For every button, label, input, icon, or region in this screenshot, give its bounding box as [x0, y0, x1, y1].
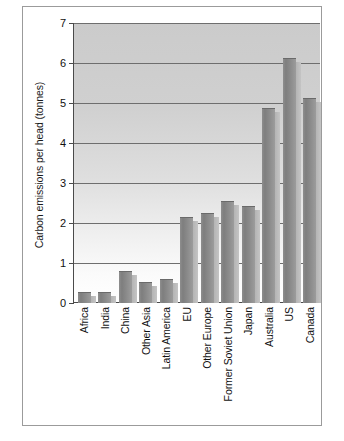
x-label-cell: Other Asia — [136, 307, 157, 425]
chart-frame: Carbon emissions per head (tonnes) 01234… — [22, 6, 322, 426]
bar — [283, 58, 296, 303]
bar — [180, 217, 193, 303]
bar-cell — [300, 23, 321, 303]
bar-cell — [218, 23, 239, 303]
bar-stack — [242, 206, 255, 303]
bar-stack — [180, 217, 193, 303]
bar-stack — [262, 108, 275, 303]
bar — [119, 271, 132, 303]
bar-cell — [74, 23, 95, 303]
plot-area: 01234567 — [74, 23, 320, 303]
bar-cell — [156, 23, 177, 303]
x-label-cell: India — [95, 307, 116, 425]
y-tick-label: 6 — [60, 57, 66, 69]
x-label-cell: EU — [177, 307, 198, 425]
bar-shadow — [91, 296, 96, 303]
bar-shadow — [111, 296, 116, 303]
bar-shadow — [316, 102, 321, 303]
bar — [303, 98, 316, 303]
bar — [262, 108, 275, 303]
bar — [242, 206, 255, 303]
x-label-cell: Other Europe — [197, 307, 218, 425]
bar-shadow — [275, 112, 280, 303]
bar-shadow — [152, 286, 157, 303]
x-tick-label: India — [99, 307, 111, 329]
bar-cell — [177, 23, 198, 303]
y-tick-label: 1 — [60, 257, 66, 269]
bar-cell — [197, 23, 218, 303]
bar-cell — [259, 23, 280, 303]
x-tick-label: Africa — [78, 307, 90, 333]
bar-shadow — [296, 62, 301, 303]
x-tick-label: US — [283, 307, 295, 321]
bar-stack — [78, 292, 91, 303]
y-tick-label: 5 — [60, 97, 66, 109]
bar-cell — [238, 23, 259, 303]
x-axis-labels: AfricaIndiaChinaOther AsiaLatin AmericaE… — [74, 307, 320, 425]
bar-stack — [119, 271, 132, 303]
bar — [160, 279, 173, 303]
x-tick-label: Australia — [263, 307, 275, 347]
bar-shadow — [132, 275, 137, 303]
bar-stack — [160, 279, 173, 303]
x-label-cell: China — [115, 307, 136, 425]
x-label-cell: Canada — [300, 307, 321, 425]
bar — [98, 292, 111, 303]
x-label-cell: Latin America — [156, 307, 177, 425]
bar-series — [74, 23, 320, 303]
x-tick-label: Canada — [304, 307, 316, 343]
bar-cell — [136, 23, 157, 303]
y-axis-title: Carbon emissions per head (tonnes) — [33, 25, 49, 305]
y-tick-label: 4 — [60, 137, 66, 149]
bar-cell — [115, 23, 136, 303]
y-tick-label: 0 — [60, 297, 66, 309]
y-tick-label: 2 — [60, 217, 66, 229]
x-tick-label: Other Asia — [140, 307, 152, 355]
bar-shadow — [214, 217, 219, 303]
bar — [221, 201, 234, 303]
x-label-cell: Australia — [259, 307, 280, 425]
x-label-cell: US — [279, 307, 300, 425]
y-tick-label: 7 — [60, 17, 66, 29]
bar — [139, 282, 152, 303]
bar-stack — [283, 58, 296, 303]
bar-stack — [221, 201, 234, 303]
bar-shadow — [255, 210, 260, 303]
bar-shadow — [173, 283, 178, 303]
y-tick-label: 3 — [60, 177, 66, 189]
bar-stack — [303, 98, 316, 303]
x-label-cell: Japan — [238, 307, 259, 425]
bar-cell — [279, 23, 300, 303]
bar-stack — [139, 282, 152, 303]
x-tick-label: Former Soviet Union — [222, 307, 234, 401]
bar — [201, 213, 214, 303]
x-tick-label: Japan — [242, 307, 254, 335]
bar-shadow — [193, 221, 198, 303]
x-label-cell: Former Soviet Union — [218, 307, 239, 425]
x-label-cell: Africa — [74, 307, 95, 425]
bar-stack — [201, 213, 214, 303]
bar — [78, 292, 91, 303]
x-tick-label: Other Europe — [201, 307, 213, 369]
y-tick-mark — [69, 303, 74, 304]
bar-cell — [95, 23, 116, 303]
bar-stack — [98, 292, 111, 303]
x-tick-label: China — [119, 307, 131, 334]
x-tick-label: EU — [181, 307, 193, 321]
x-tick-label: Latin America — [160, 307, 172, 369]
bar-shadow — [234, 205, 239, 303]
